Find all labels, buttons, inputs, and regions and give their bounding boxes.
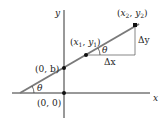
- point-y-intercept: [62, 66, 66, 70]
- label-y-intercept: (0, b): [35, 64, 59, 74]
- label-p2: (x2, y2): [117, 8, 148, 19]
- angle-arc-top: [98, 48, 100, 55]
- point-p2: [133, 23, 137, 27]
- label-theta-bottom: θ: [37, 83, 43, 93]
- x-axis-label: x: [153, 93, 158, 103]
- label-delta-y: Δy: [138, 35, 150, 45]
- slope-diagram: x y (0, 0) (0, b) (x1, y1) (x2, y2) Δx Δ…: [0, 0, 163, 122]
- label-origin: (0, 0): [37, 98, 61, 108]
- label-theta-top: θ: [102, 45, 108, 55]
- angle-arc-bottom: [32, 86, 34, 93]
- label-p1: (x1, y1): [70, 37, 101, 48]
- label-delta-x: Δx: [104, 57, 116, 67]
- point-origin: [62, 91, 66, 95]
- point-p1: [84, 53, 88, 57]
- y-axis-label: y: [54, 8, 61, 18]
